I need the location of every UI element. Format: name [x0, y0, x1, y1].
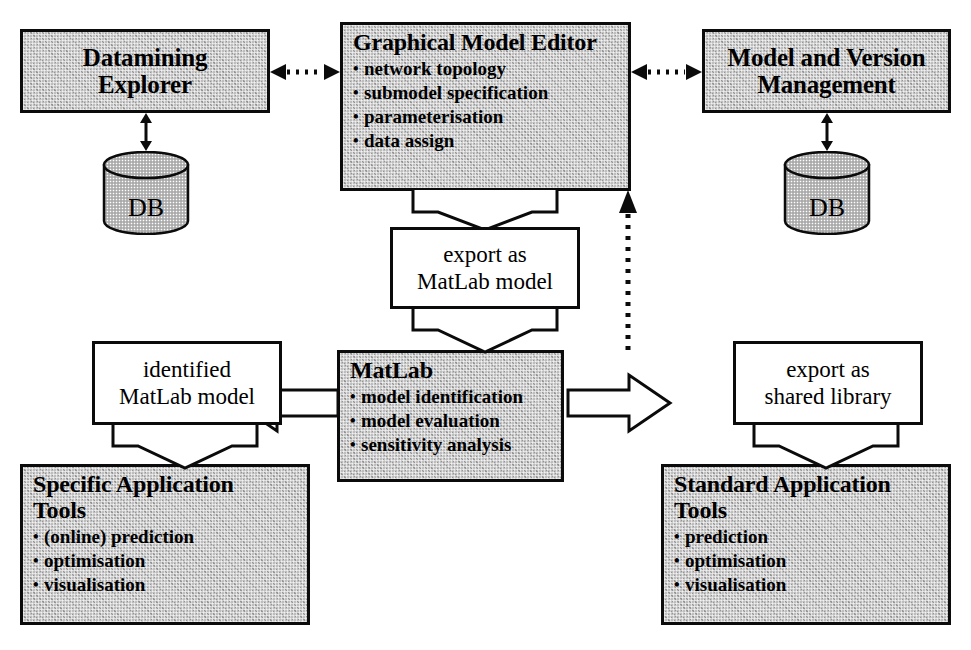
node-graphical-model-editor[interactable]: Graphical Model Editor network topology …: [340, 22, 631, 191]
list-item: visualisation: [33, 573, 307, 597]
node-export-shared-library[interactable]: export as shared library: [733, 341, 923, 425]
list-item: visualisation: [674, 573, 948, 597]
standard-tools-title-line2: Tools: [674, 498, 948, 524]
list-item: optimisation: [33, 549, 307, 573]
connector-editor-export-block-arrow: [410, 190, 560, 232]
standard-tools-bullet-list: prediction optimisation visualisation: [674, 525, 948, 597]
connector-explorer-db: [138, 113, 154, 151]
connector-matlab-sharedlib-open-arrow: [565, 370, 673, 436]
export-sharedlib-line1: export as: [786, 356, 870, 383]
datamining-explorer-title-line2: Explorer: [83, 71, 207, 98]
db-right-label: DB: [782, 193, 872, 223]
node-standard-application-tools[interactable]: Standard Application Tools prediction op…: [661, 464, 951, 625]
list-item: submodel specification: [353, 81, 628, 105]
export-matlab-line2: MatLab model: [417, 268, 553, 295]
model-version-management-title-line2: Management: [727, 71, 925, 98]
node-db-right[interactable]: DB: [782, 151, 872, 235]
connector-identified-specific-block-arrow: [110, 422, 260, 470]
matlab-title: MatLab: [350, 358, 561, 384]
list-item: data assign: [353, 129, 628, 153]
db-left-label: DB: [101, 193, 191, 223]
connector-sharedlib-standard-block-arrow: [751, 422, 901, 470]
datamining-explorer-title-line1: Datamining: [83, 44, 207, 71]
matlab-bullet-list: model identification model evaluation se…: [350, 385, 561, 457]
list-item: prediction: [674, 525, 948, 549]
standard-tools-title-line1: Standard Application: [674, 472, 948, 498]
connector-editor-management-dotted: [631, 62, 702, 82]
list-item: optimisation: [674, 549, 948, 573]
specific-tools-title-line1: Specific Application: [33, 472, 307, 498]
connector-export-matlab-block-arrow: [410, 306, 560, 354]
graphical-model-editor-bullet-list: network topology submodel specification …: [353, 57, 628, 153]
list-item: model evaluation: [350, 409, 561, 433]
model-version-management-title-line1: Model and Version: [727, 44, 925, 71]
list-item: parameterisation: [353, 105, 628, 129]
export-matlab-line1: export as: [443, 241, 527, 268]
node-matlab[interactable]: MatLab model identification model evalua…: [337, 350, 564, 482]
identified-matlab-line1: identified: [143, 356, 231, 383]
export-sharedlib-line2: shared library: [764, 383, 891, 410]
connector-explorer-editor-dotted: [270, 62, 340, 82]
node-db-left[interactable]: DB: [101, 151, 191, 235]
specific-tools-bullet-list: (online) prediction optimisation visuali…: [33, 525, 307, 597]
identified-matlab-line2: MatLab model: [119, 383, 255, 410]
node-specific-application-tools[interactable]: Specific Application Tools (online) pred…: [20, 464, 310, 625]
architecture-diagram: Datamining Explorer Graphical Model Edit…: [0, 0, 971, 650]
list-item: model identification: [350, 385, 561, 409]
node-identified-matlab-model[interactable]: identified MatLab model: [92, 341, 282, 425]
connector-matlab-editor-feedback-dotted: [618, 190, 638, 352]
connector-management-db: [819, 113, 835, 151]
list-item: sensitivity analysis: [350, 433, 561, 457]
graphical-model-editor-title: Graphical Model Editor: [353, 30, 628, 56]
node-model-and-version-management[interactable]: Model and Version Management: [702, 29, 951, 113]
list-item: (online) prediction: [33, 525, 307, 549]
list-item: network topology: [353, 57, 628, 81]
specific-tools-title-line2: Tools: [33, 498, 307, 524]
node-export-matlab-model[interactable]: export as MatLab model: [390, 227, 580, 309]
node-datamining-explorer[interactable]: Datamining Explorer: [20, 29, 270, 113]
